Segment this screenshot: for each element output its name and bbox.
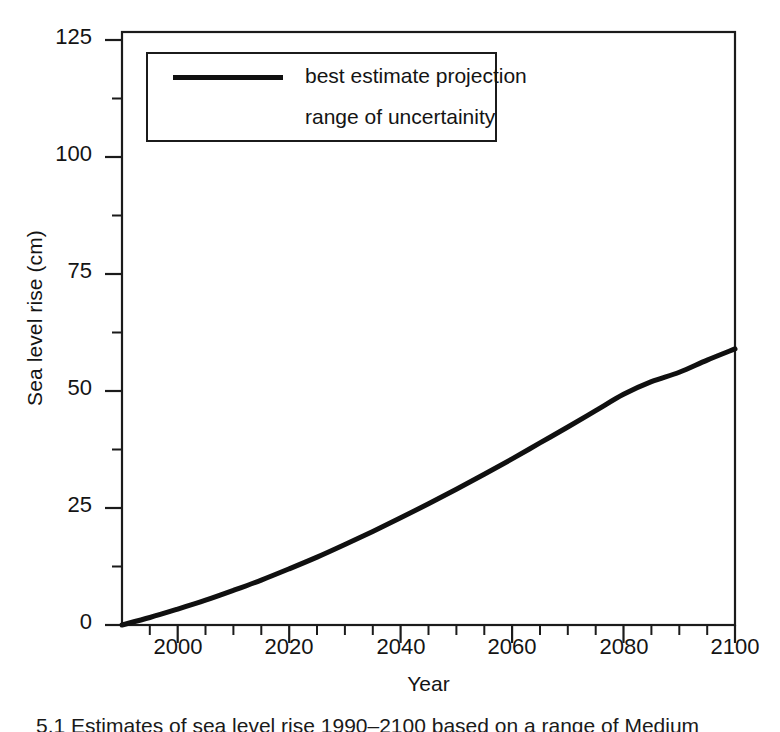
legend-label-range-of-uncertainity: range of uncertainity — [305, 105, 495, 129]
figure-caption: 5.1 Estimates of sea level rise 1990–210… — [36, 713, 748, 732]
x-tick-2000: 2000 — [123, 634, 233, 660]
x-tick-2020: 2020 — [234, 634, 344, 660]
legend-line-swatch-icon — [173, 75, 283, 80]
x-tick-2040: 2040 — [346, 634, 456, 660]
chart-legend: best estimate projection range of uncert… — [146, 52, 497, 142]
x-tick-2060: 2060 — [457, 634, 567, 660]
x-tick-2100: 2100 — [680, 634, 780, 660]
x-axis-title: Year — [122, 672, 735, 696]
figure-container: 125 100 75 50 25 0 2000 2020 2040 2060 2… — [0, 0, 780, 732]
legend-label-best-estimate-projection: best estimate projection — [305, 64, 527, 88]
legend-entry-best-estimate-projection: best estimate projection — [148, 54, 495, 99]
legend-entry-range-of-uncertainity: range of uncertainity — [148, 95, 495, 140]
x-tick-2080: 2080 — [569, 634, 679, 660]
y-axis-minor-ticks — [112, 99, 122, 567]
y-axis-title: Sea level rise (cm) — [23, 188, 47, 448]
